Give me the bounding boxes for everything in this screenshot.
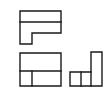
top-view-outline: [20, 11, 61, 44]
orthographic-drawing: [0, 0, 104, 99]
top-view: [20, 11, 61, 44]
side-view: [70, 52, 102, 86]
front-view-outline: [20, 53, 61, 86]
side-view-outline: [70, 52, 102, 86]
front-view: [20, 53, 61, 86]
